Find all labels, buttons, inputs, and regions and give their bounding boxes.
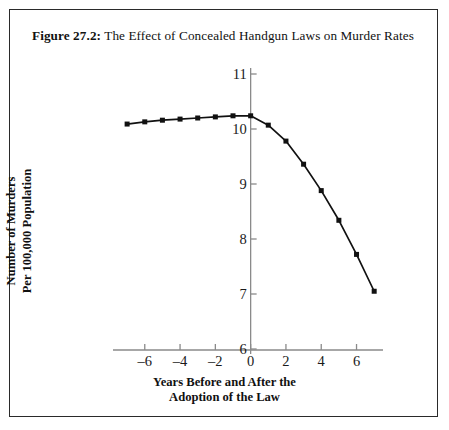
data-point-marker <box>354 252 359 257</box>
data-point-marker <box>213 114 218 119</box>
x-tick-label: 2 <box>282 353 289 370</box>
data-point-marker <box>195 116 200 121</box>
x-tick-label: 6 <box>353 353 360 370</box>
x-tick-label: –4 <box>173 353 188 370</box>
x-axis-title: Years Before and After the Adoption of t… <box>153 375 296 405</box>
x-tick-label: 4 <box>318 353 325 370</box>
data-point-marker <box>319 188 324 193</box>
data-point-marker <box>142 119 147 124</box>
y-tick-label: 11 <box>233 66 247 83</box>
y-axis-title-line-1: Number of Murders <box>4 136 20 326</box>
data-point-marker <box>336 218 341 223</box>
data-point-marker <box>248 113 253 118</box>
chart-axes <box>113 68 383 354</box>
murder-rate-line-chart <box>10 10 439 418</box>
data-point-marker <box>178 117 183 122</box>
figure-frame: Figure 27.2: The Effect of Concealed Han… <box>9 9 438 417</box>
y-tick-label: 7 <box>239 286 246 303</box>
data-point-marker <box>372 289 377 294</box>
data-point-marker <box>125 122 130 127</box>
data-point-marker <box>231 113 236 118</box>
y-tick-label: 6 <box>239 341 246 358</box>
y-tick-label: 8 <box>239 231 246 248</box>
x-axis-title-line-1: Years Before and After the <box>153 375 296 389</box>
x-tick-label: –6 <box>138 353 153 370</box>
y-axis-title: Number of Murders Per 100,000 Population <box>4 136 35 326</box>
y-tick-label: 10 <box>232 121 247 138</box>
x-tick-label: –2 <box>208 353 223 370</box>
y-axis-title-line-2: Per 100,000 Population <box>20 136 36 326</box>
y-tick-label: 9 <box>239 176 246 193</box>
chart-plot-area: 67891011 –6–4–20246 Years Before and Aft… <box>10 10 439 418</box>
data-point-marker <box>301 162 306 167</box>
data-point-marker <box>266 123 271 128</box>
x-tick-label: 0 <box>247 353 254 370</box>
data-point-marker <box>283 139 288 144</box>
data-point-marker <box>160 118 165 123</box>
x-axis-title-line-2: Adoption of the Law <box>169 390 280 404</box>
